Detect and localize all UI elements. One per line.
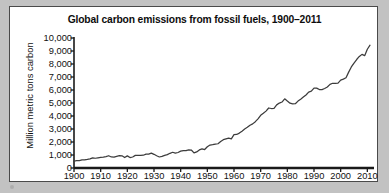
emissions-line-series [74, 45, 370, 161]
page-corner-speck [10, 185, 14, 189]
axis-lines [74, 37, 374, 168]
chart-paper: Global carbon emissions from fossil fuel… [9, 6, 378, 182]
screenshot-page: Global carbon emissions from fossil fuel… [0, 0, 389, 193]
chart-canvas: Global carbon emissions from fossil fuel… [10, 7, 377, 181]
chart-plot-area [10, 7, 379, 183]
